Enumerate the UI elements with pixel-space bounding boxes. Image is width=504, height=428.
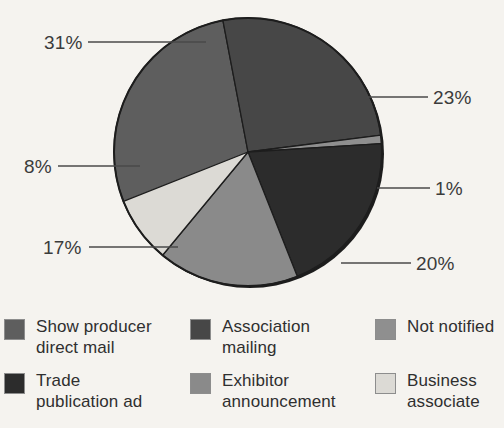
chart-legend: Show producer direct mail Association ma… <box>0 308 504 428</box>
legend-swatch-icon <box>190 373 211 394</box>
slice-label-8: 8% <box>24 156 52 178</box>
legend-item-association-mailing[interactable]: Association mailing <box>190 316 375 358</box>
legend-item-trade-publication-ad[interactable]: Trade publication ad <box>0 370 190 412</box>
pie-chart-figure: 31% 23% 1% 20% 17% 8% Show producer dire… <box>0 0 504 428</box>
pie-slice-23[interactable] <box>223 18 381 152</box>
legend-item-label: Exhibitor announcement <box>222 370 336 412</box>
slice-label-31: 31% <box>44 32 83 54</box>
slice-label-1: 1% <box>435 178 463 200</box>
slice-label-20: 20% <box>416 253 455 275</box>
legend-swatch-icon <box>375 319 396 340</box>
legend-row-1: Show producer direct mail Association ma… <box>0 316 504 358</box>
slice-label-17: 17% <box>43 237 82 259</box>
legend-item-business-associate[interactable]: Business associate <box>375 370 504 412</box>
legend-item-label: Business associate <box>407 370 480 412</box>
legend-item-label: Not notified <box>407 316 494 337</box>
legend-swatch-icon <box>190 319 211 340</box>
legend-swatch-icon <box>4 373 25 394</box>
legend-item-label: Association mailing <box>222 316 310 358</box>
legend-swatch-icon <box>4 319 25 340</box>
legend-item-exhibitor-announcement[interactable]: Exhibitor announcement <box>190 370 375 412</box>
legend-row-2: Trade publication ad Exhibitor announcem… <box>0 370 504 412</box>
legend-item-not-notified[interactable]: Not notified <box>375 316 504 358</box>
legend-item-label: Show producer direct mail <box>36 316 152 358</box>
chart-plot-area: 31% 23% 1% 20% 17% 8% <box>0 0 504 308</box>
slice-label-23: 23% <box>433 87 472 109</box>
legend-swatch-icon <box>375 373 396 394</box>
legend-item-label: Trade publication ad <box>36 370 142 412</box>
legend-item-show-producer-direct-mail[interactable]: Show producer direct mail <box>0 316 190 358</box>
